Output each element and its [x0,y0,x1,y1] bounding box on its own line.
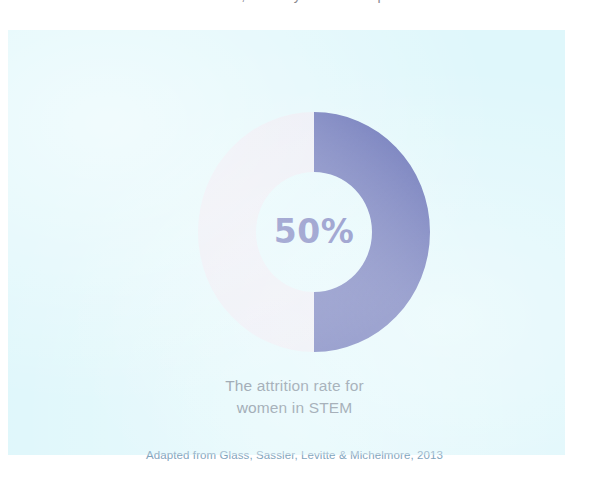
chart-caption: The attrition rate for women in STEM [16,375,573,419]
donut-slice-remaining [198,112,314,352]
donut-chart: 50% [198,112,430,352]
donut-chart-svg [198,112,430,352]
donut-slice-attrition [314,112,430,352]
chart-caption-line-1: The attrition rate for [16,375,573,397]
clipped-header-fragment: discrimination, subtlety in the workplac… [150,0,413,3]
source-attribution: Adapted from Glass, Sassler, Levitte & M… [16,449,573,461]
chart-caption-line-2: women in STEM [16,397,573,419]
clipped-header-text: discrimination, subtlety in the workplac… [0,0,596,12]
slide-panel: 50% The attrition rate for women in STEM… [8,30,565,455]
